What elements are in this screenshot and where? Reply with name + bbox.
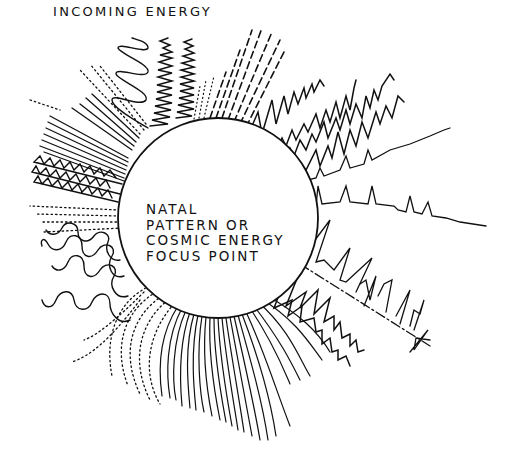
dense-zigzag-top [150, 38, 172, 126]
parallel-lines-left [40, 94, 139, 181]
center-label-line: FOCUS POINT [146, 249, 285, 265]
large-loops-top [112, 38, 148, 128]
fan-lines-bottom [160, 294, 330, 440]
dashed-lines-top [210, 28, 284, 127]
diagram-title: INCOMING ENERGY [53, 4, 212, 19]
dotted-top [194, 76, 214, 119]
dotted-lines-bottom-left [72, 286, 174, 404]
center-label: NATAL PATTERN OR COSMIC ENERGY FOCUS POI… [146, 202, 285, 264]
center-label-line: PATTERN OR [146, 218, 285, 234]
center-label-line: NATAL [146, 202, 285, 218]
center-label-line: COSMIC ENERGY [146, 233, 285, 249]
